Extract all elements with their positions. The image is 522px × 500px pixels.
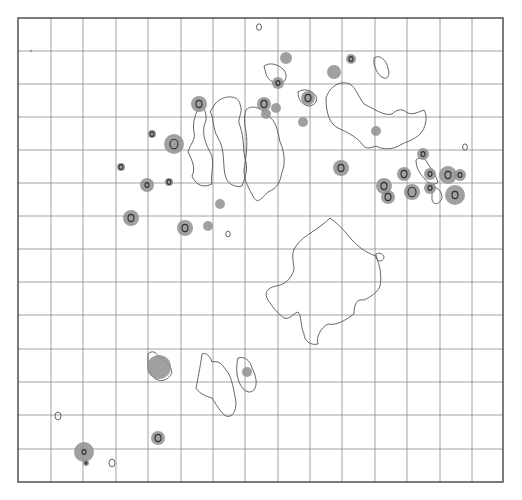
small-rings <box>55 24 467 467</box>
gray-spot <box>242 367 252 377</box>
gray-spot <box>271 103 281 113</box>
grid-map-figure <box>0 0 522 500</box>
center-large-region <box>266 218 381 344</box>
gray-spot <box>123 210 139 226</box>
gray-spot <box>381 190 395 204</box>
gray-spot <box>177 220 193 236</box>
gray-spot <box>191 96 207 112</box>
left-strip-region <box>188 106 213 186</box>
gray-spot <box>404 184 420 200</box>
gray-spot <box>74 442 94 462</box>
gray-spot <box>454 169 466 181</box>
center-small-blob <box>376 253 384 261</box>
small-ring <box>463 144 468 150</box>
gray-spot <box>203 221 213 231</box>
small-ring <box>109 459 115 467</box>
gray-spot <box>215 199 225 209</box>
region-outlines <box>148 57 442 417</box>
lower-center-region <box>196 353 236 416</box>
gray-spot <box>83 460 89 466</box>
small-ring <box>55 412 61 420</box>
gray-spot <box>371 126 381 136</box>
gray-spot <box>346 54 356 64</box>
gray-spot <box>424 168 436 180</box>
plot-frame <box>18 18 503 482</box>
gray-spot <box>272 77 284 89</box>
small-ring <box>226 231 230 237</box>
left-elongated-region <box>210 97 247 187</box>
gray-spot <box>424 182 436 194</box>
gray-spot <box>280 52 292 64</box>
tiny-mark <box>30 50 32 52</box>
gray-spot <box>301 91 315 105</box>
gray-spot <box>257 97 271 111</box>
gray-spot <box>445 185 465 205</box>
upper-right-region <box>326 83 426 149</box>
gray-spot <box>140 178 154 192</box>
gray-spot <box>327 65 341 79</box>
small-ring <box>257 24 262 31</box>
tiny-marks <box>30 50 32 52</box>
gray-spot <box>147 355 171 379</box>
gray-spot <box>397 167 411 181</box>
gray-spot <box>261 109 271 119</box>
upper-right-small-region <box>374 57 389 79</box>
gray-spot <box>417 148 429 160</box>
gray-spot <box>164 134 184 154</box>
gray-spot <box>151 431 165 445</box>
gray-spot <box>333 160 349 176</box>
grid-lines <box>18 18 503 482</box>
gray-spot <box>298 117 308 127</box>
